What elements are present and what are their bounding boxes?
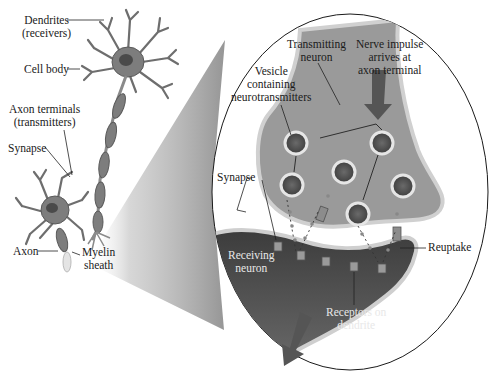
- label-vesicle-line3: neurotransmitters: [231, 91, 311, 104]
- label-myelin-line1: Myelin: [82, 246, 115, 259]
- label-transmitting-neuron: Transmitting neuron: [287, 38, 346, 64]
- label-transmitting-line2: neuron: [287, 51, 346, 64]
- label-synapse-overview: Synapse: [8, 142, 46, 155]
- label-receptors-line1: Receptors on: [326, 306, 386, 319]
- label-axon-terminals-line2: (transmitters): [9, 116, 80, 129]
- label-receptors-line2: dendrite: [326, 319, 386, 332]
- label-myelin-line2: sheath: [82, 259, 115, 272]
- label-myelin-sheath: Myelin sheath: [82, 246, 115, 272]
- label-reuptake: Reuptake: [428, 241, 471, 254]
- label-receptors: Receptors on dendrite: [326, 306, 386, 332]
- label-vesicle: Vesicle containing neurotransmitters: [231, 65, 311, 104]
- label-axon-terminals-line1: Axon terminals: [9, 103, 80, 116]
- label-dendrites-line2: (receivers): [22, 27, 71, 40]
- label-receiving-neuron: Receiving neuron: [228, 249, 275, 275]
- label-vesicle-line2: containing: [231, 78, 311, 91]
- label-axon: Axon: [13, 245, 39, 258]
- label-transmitting-line1: Transmitting: [287, 38, 346, 51]
- label-receiving-line2: neuron: [228, 262, 275, 275]
- label-synapse-detail: Synapse: [217, 171, 255, 184]
- label-impulse-line2: arrives at: [356, 51, 423, 64]
- label-axon-terminals: Axon terminals (transmitters): [9, 103, 80, 129]
- label-impulse-line3: axon terminal: [356, 64, 423, 77]
- label-dendrites: Dendrites (receivers): [22, 14, 71, 40]
- label-vesicle-line1: Vesicle: [231, 65, 311, 78]
- label-impulse-line1: Nerve impulse: [356, 38, 423, 51]
- label-receiving-line1: Receiving: [228, 249, 275, 262]
- label-dendrites-line1: Dendrites: [22, 14, 71, 27]
- label-nerve-impulse: Nerve impulse arrives at axon terminal: [356, 38, 423, 77]
- label-cell-body: Cell body: [24, 63, 69, 76]
